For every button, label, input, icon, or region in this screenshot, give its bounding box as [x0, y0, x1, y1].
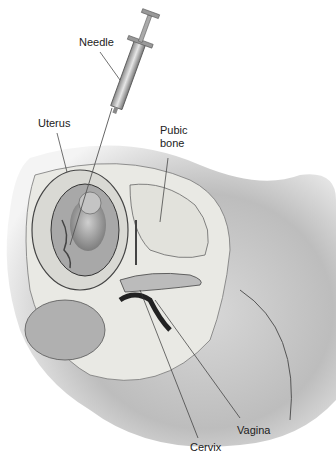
label-uterus: Uterus: [38, 117, 70, 130]
anatomy-illustration: Needle Uterus Pubic bone Vagina Cervix: [0, 0, 336, 462]
label-cervix: Cervix: [190, 441, 221, 454]
label-needle: Needle: [79, 36, 114, 49]
label-pubic-bone-1: Pubic: [160, 124, 188, 137]
label-vagina: Vagina: [237, 424, 270, 437]
label-pubic-bone-2: bone: [160, 137, 184, 150]
illustration-drawing: [0, 0, 336, 462]
